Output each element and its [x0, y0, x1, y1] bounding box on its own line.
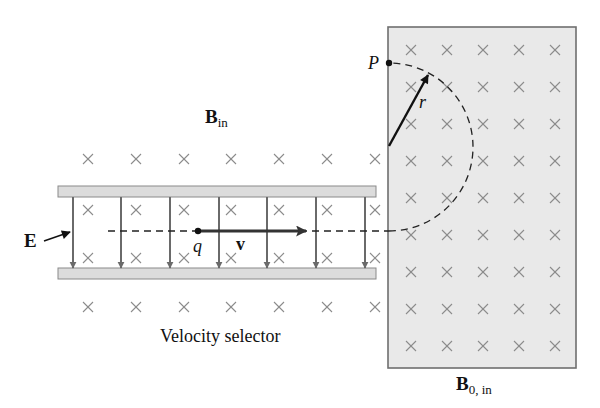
diagram-canvas: Bin B0, in E q v P r Velocity selector [0, 0, 600, 408]
cross-icon [179, 302, 189, 312]
cross-icon [274, 302, 284, 312]
cross-icon [226, 154, 236, 164]
cross-icon [226, 205, 236, 215]
e-field-label: E [24, 230, 37, 251]
b0-field-region [388, 27, 576, 368]
cross-icon [322, 253, 332, 263]
b-in-field-crosses [83, 154, 380, 312]
cross-icon [131, 154, 141, 164]
bottom-plate [58, 268, 376, 279]
cross-icon [274, 154, 284, 164]
selector-field-crosses [83, 205, 380, 263]
cross-icon [179, 253, 189, 263]
cross-icon [179, 205, 189, 215]
charge-q-label: q [193, 236, 202, 256]
velocity-selector-diagram: Bin B0, in E q v P r Velocity selector [0, 0, 600, 408]
cross-icon [83, 253, 93, 263]
cross-icon [274, 253, 284, 263]
cross-icon [131, 205, 141, 215]
velocity-v-label: v [236, 234, 245, 254]
cross-icon [370, 253, 380, 263]
cross-icon [131, 302, 141, 312]
cross-icon [322, 205, 332, 215]
velocity-selector-caption: Velocity selector [160, 326, 280, 346]
b0-in-label: B0, in [456, 373, 492, 397]
cross-icon [83, 302, 93, 312]
cross-icon [274, 205, 284, 215]
cross-icon [83, 154, 93, 164]
cross-icon [226, 302, 236, 312]
cross-icon [83, 205, 93, 215]
cross-icon [322, 302, 332, 312]
point-p-label: P [367, 53, 379, 73]
cross-icon [370, 154, 380, 164]
cross-icon [226, 253, 236, 263]
cross-icon [322, 154, 332, 164]
cross-icon [131, 253, 141, 263]
cross-icon [370, 302, 380, 312]
particle-dot [195, 228, 201, 234]
top-plate [58, 186, 376, 197]
radius-r-label: r [419, 92, 427, 112]
cross-icon [179, 154, 189, 164]
b-in-label: Bin [205, 106, 228, 130]
cross-icon [370, 205, 380, 215]
e-pointer-arrow-icon [44, 232, 70, 241]
point-p-dot [386, 60, 392, 66]
